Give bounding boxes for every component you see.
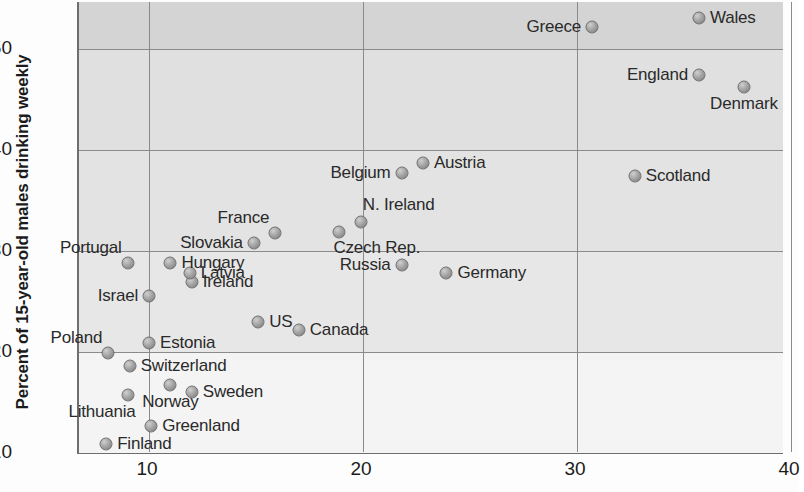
data-point-marker xyxy=(395,167,408,180)
data-point-label: Sweden xyxy=(203,382,263,402)
data-point-marker xyxy=(692,11,705,24)
data-point-marker xyxy=(692,69,705,82)
plot-area: FinlandGreenlandLithuaniaNorwaySwedenSwi… xyxy=(77,2,783,454)
data-point-marker xyxy=(354,215,367,228)
x-axis-tick-label: 20 xyxy=(331,458,391,480)
y-axis-tick-label: 20 xyxy=(0,340,12,362)
data-point-label: US xyxy=(269,312,292,332)
data-point-marker xyxy=(585,20,598,33)
data-point-label: N. Ireland xyxy=(363,195,435,215)
data-point-marker xyxy=(145,419,158,432)
data-point-marker xyxy=(185,386,198,399)
data-point-marker xyxy=(395,259,408,272)
data-point-label: Switzerland xyxy=(141,356,227,376)
data-point-label: Greenland xyxy=(162,416,240,436)
gridline-vertical xyxy=(791,2,792,452)
data-point-label: Austria xyxy=(434,153,486,173)
x-axis-tick-label: 10 xyxy=(117,458,177,480)
data-point-marker xyxy=(737,81,750,94)
y-axis-title: Percent of 15-year-old males drinking we… xyxy=(13,0,33,467)
data-point-marker xyxy=(100,437,113,450)
data-point-label: Finland xyxy=(117,434,171,454)
data-point-marker xyxy=(123,360,136,373)
data-point-marker xyxy=(121,257,134,270)
data-point-marker xyxy=(628,170,641,183)
y-axis-tick-label: 10 xyxy=(0,441,12,463)
data-point-marker xyxy=(252,315,265,328)
data-point-marker xyxy=(247,236,260,249)
data-point-label: Germany xyxy=(457,263,526,283)
background-band xyxy=(79,2,783,49)
data-point-marker xyxy=(269,226,282,239)
x-axis-tick-label: 30 xyxy=(545,458,605,480)
data-point-marker xyxy=(333,225,346,238)
data-point-label: Hungary xyxy=(181,253,244,273)
data-point-marker xyxy=(440,267,453,280)
data-point-marker xyxy=(102,347,115,360)
gridline-vertical xyxy=(149,2,150,452)
data-point-label: Portugal xyxy=(60,238,122,258)
x-axis-tick-label: 40 xyxy=(759,458,804,480)
gridline-horizontal xyxy=(79,49,783,50)
data-point-label: Czech Rep. xyxy=(333,238,420,258)
data-point-marker xyxy=(164,257,177,270)
data-point-label: Lithuania xyxy=(68,402,135,422)
data-point-label: Russia xyxy=(340,255,391,275)
data-point-label: France xyxy=(218,208,270,228)
data-point-label: Poland xyxy=(51,328,103,348)
data-point-label: Scotland xyxy=(646,166,711,186)
data-point-label: Canada xyxy=(310,320,368,340)
data-point-label: Israel xyxy=(98,286,138,306)
data-point-marker xyxy=(164,379,177,392)
gridline-horizontal xyxy=(79,150,783,151)
y-axis-tick-label: 50 xyxy=(0,37,12,59)
background-band xyxy=(79,49,783,150)
data-point-label: Slovakia xyxy=(180,233,243,253)
data-point-label: Greece xyxy=(526,17,581,37)
data-point-marker xyxy=(143,336,156,349)
y-axis-tick-label: 30 xyxy=(0,239,12,261)
data-point-marker xyxy=(121,389,134,402)
data-point-label: Belgium xyxy=(330,163,390,183)
data-point-label: Wales xyxy=(710,8,756,28)
data-point-label: England xyxy=(627,65,688,85)
data-point-marker xyxy=(292,323,305,336)
data-point-marker xyxy=(416,157,429,170)
data-point-label: Denmark xyxy=(710,94,778,114)
y-axis-tick-label: 40 xyxy=(0,138,12,160)
data-point-label: Estonia xyxy=(160,333,215,353)
gridline-vertical xyxy=(577,2,578,452)
data-point-marker xyxy=(143,290,156,303)
